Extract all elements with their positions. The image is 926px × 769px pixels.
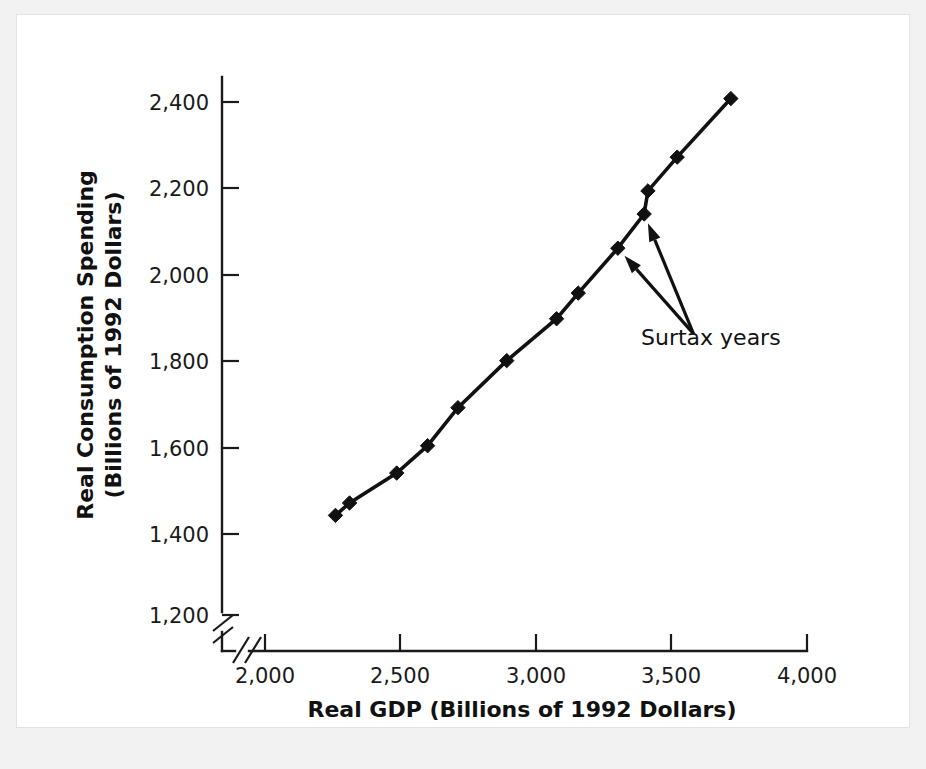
y-tick-label-2000: 2,000 — [149, 264, 209, 288]
y-ticks — [222, 102, 239, 615]
y-tick-label-2400: 2,400 — [149, 91, 209, 115]
x-tick-label-3500: 3,500 — [641, 664, 701, 688]
figure-root: 2,400 2,200 2,000 1,800 1,600 1,400 1,20… — [0, 0, 926, 769]
x-axis-title: Real GDP (Billions of 1992 Dollars) — [307, 697, 736, 722]
y-tick-labels: 2,400 2,200 2,000 1,800 1,600 1,400 1,20… — [149, 91, 209, 628]
y-tick-label-1400: 1,400 — [149, 523, 209, 547]
y-tick-label-2200: 2,200 — [149, 177, 209, 201]
annotation-arrow-head — [648, 223, 660, 242]
annotation-arrow-shaft — [636, 269, 693, 333]
x-axis: 2,000 2,500 3,000 3,500 4,000 Real GDP (… — [222, 634, 837, 722]
figure-bottom-band — [0, 731, 926, 769]
y-axis-title: Real Consumption Spending (Billions of 1… — [73, 170, 126, 520]
y-axis-title-line-1: Real Consumption Spending — [73, 170, 98, 520]
series-markers — [328, 91, 738, 522]
annotation-label: Surtax years — [641, 325, 781, 350]
x-tick-label-2000: 2,000 — [235, 664, 295, 688]
annotation-arrow-shaft — [655, 240, 694, 334]
x-tick-label-3000: 3,000 — [506, 664, 566, 688]
y-axis: 2,400 2,200 2,000 1,800 1,600 1,400 1,20… — [73, 77, 239, 651]
x-tick-label-4000: 4,000 — [777, 664, 837, 688]
y-tick-label-1600: 1,600 — [149, 437, 209, 461]
figure-plate: 2,400 2,200 2,000 1,800 1,600 1,400 1,20… — [16, 14, 910, 728]
y-axis-title-line-2: (Billions of 1992 Dollars) — [101, 191, 126, 498]
x-tick-labels: 2,000 2,500 3,000 3,500 4,000 — [235, 664, 837, 688]
x-tick-label-2500: 2,500 — [370, 664, 430, 688]
annotation-surtax-years: Surtax years — [624, 223, 780, 350]
data-series — [328, 91, 738, 522]
chart-canvas: 2,400 2,200 2,000 1,800 1,600 1,400 1,20… — [17, 15, 911, 729]
x-ticks — [265, 634, 807, 651]
annotation-arrows — [624, 223, 693, 333]
line-chart: 2,400 2,200 2,000 1,800 1,600 1,400 1,20… — [17, 15, 911, 729]
y-tick-label-1800: 1,800 — [149, 350, 209, 374]
y-tick-label-1200: 1,200 — [149, 604, 209, 628]
